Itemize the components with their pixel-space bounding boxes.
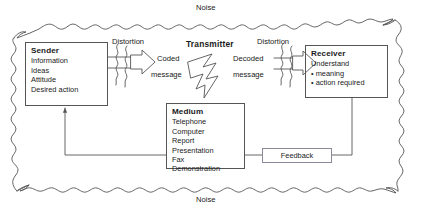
- receiver-box: Receiver Understand • meaning • action r…: [305, 45, 388, 98]
- decoded-message-label-line1: Decoded: [233, 55, 263, 64]
- distortion-squiggle-left-b: [125, 46, 127, 87]
- medium-box: Medium Telephone Computer Report Present…: [166, 103, 245, 169]
- distortion-label-left: Distortion: [112, 38, 144, 47]
- noise-wave-top: [14, 19, 394, 38]
- noise-label-top: Noise: [196, 4, 215, 13]
- receiver-bullet-meaning: • meaning: [311, 69, 383, 78]
- distortion-label-right: Distortion: [257, 38, 289, 47]
- receiver-box-list: Understand • meaning • action required: [311, 59, 383, 87]
- receiver-bullet-meaning-label: meaning: [316, 69, 344, 78]
- sender-item-attitude: Attitude: [31, 75, 103, 84]
- sender-box-title: Sender: [31, 46, 103, 56]
- feedback-label: Feedback: [281, 151, 313, 160]
- sender-box: Sender Information Ideas Attitude Desire…: [25, 42, 108, 106]
- transmitter-lightning-bolt: [188, 54, 218, 98]
- medium-box-title: Medium: [172, 107, 240, 117]
- noise-wave-bottom: [18, 185, 398, 193]
- medium-item-computer: Computer: [172, 127, 240, 136]
- bullet-dot-icon: •: [311, 78, 314, 87]
- medium-item-telephone: Telephone: [172, 117, 240, 126]
- coded-message-label-line2: message: [151, 71, 182, 80]
- medium-item-report: Report: [172, 136, 240, 145]
- medium-item-fax: Fax: [172, 155, 240, 164]
- medium-box-list: Telephone Computer Report Presentation F…: [172, 117, 240, 173]
- noise-wave-top-tail: [383, 20, 395, 25]
- receiver-item-understand: Understand: [311, 59, 383, 68]
- decoded-message-label-line2: message: [233, 71, 264, 80]
- noise-wave-right: [395, 20, 404, 191]
- receiver-bullet-action-required-label: action required: [316, 78, 365, 87]
- receiver-to-feedback-line: [332, 98, 352, 155]
- sender-item-ideas: Ideas: [31, 66, 103, 75]
- medium-item-demonstration: Demonstration: [172, 164, 240, 173]
- feedback-box: Feedback: [262, 148, 332, 163]
- medium-item-presentation: Presentation: [172, 146, 240, 155]
- distortion-squiggle-right-a: [281, 44, 283, 85]
- transmitter-label: Transmitter: [186, 40, 234, 50]
- communication-process-diagram: Noise Noise Sender Information Ideas Att…: [0, 0, 431, 215]
- medium-to-sender-return-line: [65, 108, 166, 155]
- noise-wave-left: [11, 38, 18, 191]
- noise-label-bottom: Noise: [196, 196, 215, 205]
- sender-item-desired-action: Desired action: [31, 85, 103, 94]
- receiver-box-title: Receiver: [311, 49, 383, 59]
- coded-message-label-line1: Coded: [157, 55, 179, 64]
- sender-box-list: Information Ideas Attitude Desired actio…: [31, 56, 103, 94]
- receiver-bullet-action-required: • action required: [311, 78, 383, 87]
- distortion-squiggle-left-a: [116, 44, 118, 85]
- bullet-dot-icon: •: [311, 69, 314, 78]
- sender-item-information: Information: [31, 56, 103, 65]
- distortion-squiggle-right-b: [290, 46, 292, 87]
